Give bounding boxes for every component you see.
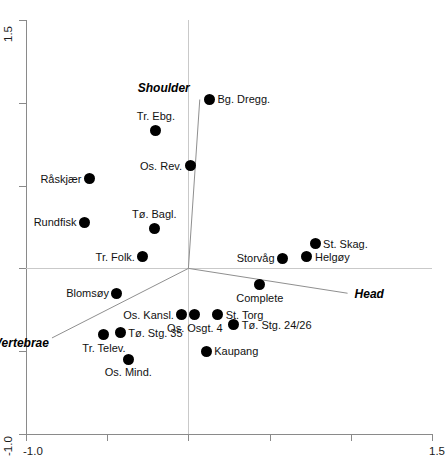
data-point[interactable]: [301, 251, 312, 262]
data-point-label: Helgøy: [315, 251, 350, 262]
vector-line-head: [188, 268, 347, 293]
plot-area: ShoulderHeadVertebrae Bg. Dregg.Tr. Ebg.…: [26, 20, 432, 434]
x-axis-tick: [26, 434, 27, 441]
y-axis-tick: [19, 186, 26, 187]
data-point-label: Storvåg: [237, 253, 275, 264]
data-point-label: Rundfisk: [34, 217, 77, 228]
data-point[interactable]: [123, 354, 134, 365]
vector-label-shoulder: Shoulder: [138, 81, 190, 95]
data-point[interactable]: [150, 125, 161, 136]
data-point[interactable]: [79, 217, 90, 228]
data-point-label: Complete: [236, 293, 283, 304]
x-axis-tick: [107, 434, 108, 441]
data-point[interactable]: [228, 319, 239, 330]
data-point[interactable]: [212, 309, 223, 320]
y-axis-tick: [19, 103, 26, 104]
y-axis-tick-label: -1.0: [2, 436, 14, 456]
data-point-label: Blomsøy: [66, 288, 109, 299]
data-point-label: Råskjær: [40, 173, 81, 184]
data-point-label: Tr. Folk.: [96, 251, 135, 262]
data-point[interactable]: [137, 251, 148, 262]
x-axis-tick-label: -1.0: [23, 445, 43, 457]
data-point[interactable]: [115, 327, 126, 338]
vector-label-head: Head: [355, 287, 384, 301]
x-axis-tick: [188, 434, 189, 441]
y-axis-tick: [19, 434, 26, 435]
x-axis-spine: [26, 434, 432, 435]
y-axis-tick: [19, 20, 26, 21]
data-point-label: Tø. Bagl.: [132, 209, 177, 220]
data-point[interactable]: [185, 160, 196, 171]
data-point[interactable]: [98, 329, 109, 340]
vector-label-vertebrae: Vertebrae: [0, 336, 49, 350]
y-axis-tick: [19, 351, 26, 352]
data-point-label: Kaupang: [214, 346, 258, 357]
data-point-label: Os. Mind.: [105, 367, 152, 378]
data-point[interactable]: [277, 253, 288, 264]
data-point[interactable]: [84, 173, 95, 184]
zero-line-horizontal: [26, 268, 432, 269]
data-point-label: Os. Rev.: [140, 160, 182, 171]
data-point-label: Tø. Stg. 24/26: [242, 319, 312, 330]
x-axis-tick-label: 1.5: [429, 445, 445, 457]
x-axis-tick: [351, 434, 352, 441]
data-point[interactable]: [254, 279, 265, 290]
scatter-plot-figure: 1.5-1.0-1.01.5 ShoulderHeadVertebrae Bg.…: [0, 0, 446, 466]
data-point[interactable]: [189, 309, 200, 320]
x-axis-tick: [432, 434, 433, 441]
data-point-label: St. Skag.: [323, 238, 368, 249]
y-axis-tick: [19, 268, 26, 269]
data-point-label: Tr. Ebg.: [137, 111, 175, 122]
data-point[interactable]: [204, 94, 215, 105]
data-point-label: Bg. Dregg.: [218, 94, 271, 105]
y-axis-tick-label: 1.5: [2, 26, 14, 42]
vector-line-shoulder: [188, 99, 199, 268]
data-point[interactable]: [149, 223, 160, 234]
data-point[interactable]: [310, 238, 321, 249]
x-axis-tick: [270, 434, 271, 441]
data-point[interactable]: [176, 309, 187, 320]
data-point-label: Os. Kansl.: [123, 309, 174, 320]
data-point[interactable]: [111, 288, 122, 299]
data-point[interactable]: [201, 346, 212, 357]
data-point-label: Tø. Stg. 35: [128, 327, 182, 338]
data-point-label: Tr. Telev.: [82, 343, 125, 354]
